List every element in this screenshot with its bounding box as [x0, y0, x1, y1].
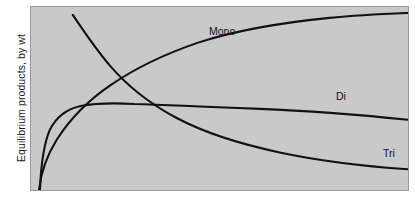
curve-label-di: Di	[336, 90, 346, 102]
curve-label-tri: Tri	[383, 147, 395, 159]
chart-figure: Equilibrium products, by wt Mono Di Tri	[0, 0, 415, 201]
curve-label-mono: Mono	[209, 25, 235, 37]
curve-di	[40, 103, 408, 190]
plot-area: Mono Di Tri	[30, 6, 409, 191]
y-axis-label: Equilibrium products, by wt	[15, 13, 27, 183]
curve-tri	[73, 15, 408, 169]
